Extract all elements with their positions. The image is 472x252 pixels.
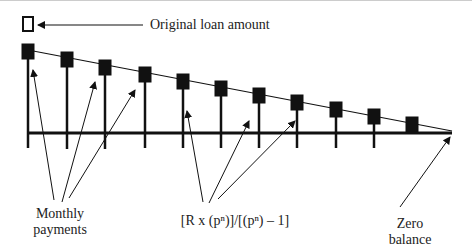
zero-balance-label: Zero balance [380,216,440,248]
zero-line2: balance [380,232,440,248]
original-loan-box [23,17,33,31]
zero-balance-arrow [400,137,450,207]
monthly-line2: payments [25,222,95,238]
formula-label: [R x (pⁿ)]/[(pⁿ) – 1] [170,213,300,229]
monthly-line1: Monthly [25,206,95,222]
monthly-payments-label: Monthly payments [25,206,95,238]
formula-arrows [187,111,295,203]
original-loan-label: Original loan amount [150,17,270,33]
zero-line1: Zero [380,216,440,232]
monthly-payment-arrows [33,70,135,202]
balance-line [28,50,452,131]
